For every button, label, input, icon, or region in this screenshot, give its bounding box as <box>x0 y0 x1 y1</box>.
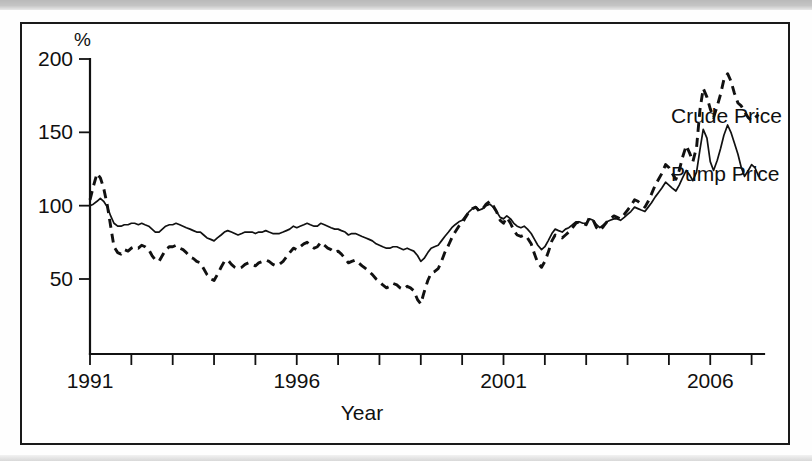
x-axis-title: Year <box>341 401 383 424</box>
y-tick-label: 50 <box>50 267 73 290</box>
figure-root: 50100150200 1991199620012006 % Crude Pri… <box>0 0 812 461</box>
scan-artifact-top-band <box>0 0 812 10</box>
series-line-pump-price <box>90 125 759 261</box>
x-tick-label: 1991 <box>67 369 114 392</box>
y-axis-unit-label: % <box>74 29 91 50</box>
line-chart-plot: 50100150200 1991199620012006 % Crude Pri… <box>22 24 788 443</box>
y-axis-ticks: 50100150200 <box>38 47 90 290</box>
y-tick-label: 150 <box>38 120 73 143</box>
scan-artifact-bottom-band <box>0 455 812 461</box>
x-axis-ticks: 1991199620012006 <box>67 354 752 392</box>
x-tick-label: 1996 <box>273 369 320 392</box>
y-tick-label: 100 <box>38 194 73 217</box>
x-tick-label: 2006 <box>687 369 734 392</box>
y-tick-label: 200 <box>38 47 73 70</box>
figure-frame-border: 50100150200 1991199620012006 % Crude Pri… <box>20 22 790 445</box>
legend-label-pump-price: Pump Price <box>671 162 780 185</box>
x-tick-label: 2001 <box>480 369 527 392</box>
series-line-crude-price <box>90 74 759 304</box>
legend-label-crude-price: Crude Price <box>671 104 782 127</box>
